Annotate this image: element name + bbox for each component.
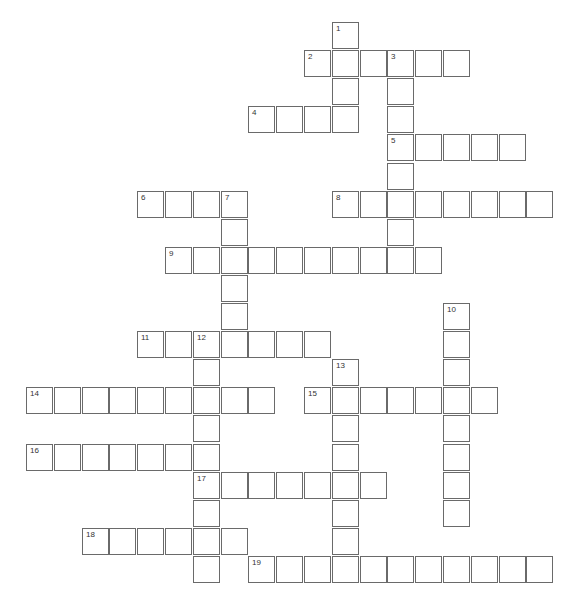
crossword-cell[interactable] (443, 387, 470, 414)
crossword-cell[interactable] (499, 556, 526, 583)
crossword-cell[interactable] (471, 134, 498, 161)
crossword-cell[interactable] (387, 106, 414, 133)
crossword-cell[interactable]: 15 (304, 387, 331, 414)
crossword-cell[interactable] (387, 556, 414, 583)
crossword-cell[interactable] (193, 500, 220, 527)
crossword-cell[interactable] (221, 528, 248, 555)
crossword-cell[interactable] (332, 50, 359, 77)
crossword-cell[interactable]: 12 (193, 331, 220, 358)
crossword-cell[interactable] (248, 472, 275, 499)
crossword-cell[interactable] (387, 387, 414, 414)
crossword-cell[interactable] (443, 331, 470, 358)
crossword-cell[interactable] (360, 191, 387, 218)
crossword-cell[interactable] (276, 331, 303, 358)
crossword-cell[interactable] (526, 556, 553, 583)
crossword-cell[interactable]: 5 (387, 134, 414, 161)
crossword-cell[interactable] (332, 415, 359, 442)
crossword-cell[interactable] (304, 472, 331, 499)
crossword-cell[interactable] (193, 415, 220, 442)
crossword-cell[interactable] (526, 191, 553, 218)
crossword-cell[interactable] (54, 444, 81, 471)
crossword-cell[interactable] (276, 247, 303, 274)
crossword-cell[interactable] (332, 387, 359, 414)
crossword-cell[interactable] (304, 331, 331, 358)
crossword-cell[interactable] (332, 528, 359, 555)
crossword-cell[interactable] (387, 78, 414, 105)
crossword-cell[interactable] (332, 556, 359, 583)
crossword-cell[interactable]: 19 (248, 556, 275, 583)
crossword-cell[interactable] (221, 387, 248, 414)
crossword-cell[interactable] (360, 387, 387, 414)
crossword-cell[interactable] (415, 556, 442, 583)
crossword-cell[interactable] (221, 472, 248, 499)
crossword-cell[interactable] (165, 331, 192, 358)
crossword-cell[interactable]: 16 (26, 444, 53, 471)
crossword-cell[interactable] (221, 331, 248, 358)
crossword-cell[interactable] (165, 387, 192, 414)
crossword-cell[interactable]: 1 (332, 22, 359, 49)
crossword-cell[interactable] (221, 247, 248, 274)
crossword-cell[interactable] (54, 387, 81, 414)
crossword-cell[interactable] (332, 500, 359, 527)
crossword-cell[interactable] (387, 247, 414, 274)
crossword-cell[interactable] (137, 528, 164, 555)
crossword-cell[interactable] (387, 219, 414, 246)
crossword-cell[interactable] (304, 247, 331, 274)
crossword-cell[interactable] (415, 247, 442, 274)
crossword-cell[interactable] (82, 387, 109, 414)
crossword-cell[interactable]: 10 (443, 303, 470, 330)
crossword-cell[interactable] (193, 528, 220, 555)
crossword-cell[interactable] (471, 191, 498, 218)
crossword-cell[interactable] (415, 387, 442, 414)
crossword-cell[interactable] (443, 415, 470, 442)
crossword-cell[interactable]: 8 (332, 191, 359, 218)
crossword-cell[interactable] (443, 191, 470, 218)
crossword-cell[interactable] (193, 359, 220, 386)
crossword-cell[interactable] (109, 444, 136, 471)
crossword-cell[interactable] (471, 387, 498, 414)
crossword-cell[interactable] (415, 191, 442, 218)
crossword-cell[interactable]: 2 (304, 50, 331, 77)
crossword-cell[interactable] (193, 247, 220, 274)
crossword-cell[interactable] (332, 472, 359, 499)
crossword-cell[interactable] (499, 134, 526, 161)
crossword-cell[interactable]: 13 (332, 359, 359, 386)
crossword-cell[interactable] (387, 191, 414, 218)
crossword-cell[interactable] (332, 247, 359, 274)
crossword-cell[interactable] (193, 387, 220, 414)
crossword-cell[interactable] (221, 275, 248, 302)
crossword-cell[interactable] (499, 191, 526, 218)
crossword-cell[interactable] (248, 247, 275, 274)
crossword-cell[interactable] (304, 556, 331, 583)
crossword-cell[interactable] (415, 134, 442, 161)
crossword-cell[interactable] (332, 106, 359, 133)
crossword-cell[interactable]: 6 (137, 191, 164, 218)
crossword-cell[interactable] (443, 444, 470, 471)
crossword-cell[interactable]: 11 (137, 331, 164, 358)
crossword-cell[interactable] (82, 444, 109, 471)
crossword-cell[interactable] (443, 472, 470, 499)
crossword-cell[interactable] (165, 444, 192, 471)
crossword-cell[interactable] (276, 472, 303, 499)
crossword-cell[interactable]: 14 (26, 387, 53, 414)
crossword-cell[interactable] (304, 106, 331, 133)
crossword-cell[interactable] (248, 331, 275, 358)
crossword-cell[interactable] (276, 106, 303, 133)
crossword-cell[interactable] (443, 50, 470, 77)
crossword-cell[interactable] (332, 444, 359, 471)
crossword-cell[interactable]: 9 (165, 247, 192, 274)
crossword-cell[interactable] (193, 444, 220, 471)
crossword-cell[interactable] (360, 472, 387, 499)
crossword-cell[interactable] (109, 528, 136, 555)
crossword-cell[interactable]: 7 (221, 191, 248, 218)
crossword-cell[interactable] (387, 163, 414, 190)
crossword-cell[interactable] (109, 387, 136, 414)
crossword-cell[interactable]: 17 (193, 472, 220, 499)
crossword-cell[interactable] (193, 556, 220, 583)
crossword-cell[interactable] (471, 556, 498, 583)
crossword-cell[interactable] (276, 556, 303, 583)
crossword-cell[interactable]: 18 (82, 528, 109, 555)
crossword-cell[interactable] (443, 556, 470, 583)
crossword-cell[interactable] (360, 247, 387, 274)
crossword-cell[interactable] (443, 359, 470, 386)
